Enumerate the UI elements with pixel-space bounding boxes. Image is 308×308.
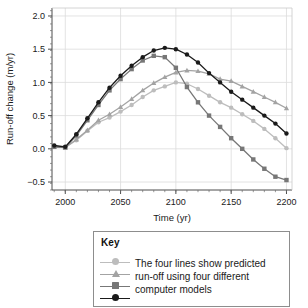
data-point-8 — [140, 55, 144, 59]
data-point-9 — [152, 88, 156, 92]
chart-key-box: Key The four lines show predicted run-of… — [93, 231, 290, 307]
data-point-17 — [240, 147, 244, 151]
key-description-line-3: computer models — [135, 283, 287, 296]
ytick-label-4: 1.5 — [32, 44, 45, 54]
data-point-19 — [262, 167, 266, 171]
model-2-sample-marker — [112, 270, 120, 277]
ytick-label-1: 0.0 — [32, 144, 45, 154]
data-point-16 — [229, 105, 233, 109]
data-point-14 — [207, 113, 211, 117]
data-point-6 — [118, 109, 122, 113]
data-point-13 — [196, 100, 200, 104]
data-point-9 — [152, 48, 156, 52]
data-point-3 — [85, 116, 89, 120]
chart-figure: −0.50.00.51.01.52.020002050210021502200T… — [0, 0, 308, 228]
ytick-label-2: 0.5 — [32, 111, 45, 121]
data-point-6 — [118, 74, 122, 78]
y-axis-title: Run-off change (m/yr) — [4, 53, 15, 145]
model-3-sample — [100, 280, 130, 292]
data-point-17 — [240, 112, 244, 116]
runoff-change-line-chart: −0.50.00.51.01.52.020002050210021502200T… — [0, 0, 308, 228]
data-point-7 — [129, 64, 133, 68]
data-point-21 — [284, 131, 288, 135]
data-point-17 — [240, 97, 244, 101]
model-4-sample — [100, 292, 130, 304]
data-point-14 — [207, 93, 211, 97]
ytick-label-3: 1.0 — [32, 78, 45, 88]
key-description-line-2: run-off using four different — [135, 270, 287, 283]
model-2-sample — [100, 268, 130, 280]
data-point-15 — [218, 80, 222, 84]
data-point-5 — [107, 86, 111, 90]
data-point-1 — [63, 145, 67, 149]
model-3-sample-marker — [112, 282, 119, 289]
data-point-10 — [163, 55, 167, 59]
model-4-sample-marker — [112, 294, 119, 301]
data-point-15 — [218, 125, 222, 129]
data-point-20 — [273, 136, 277, 140]
data-point-20 — [273, 175, 277, 179]
xtick-label-3: 2150 — [221, 197, 241, 207]
ytick-label-5: 2.0 — [32, 11, 45, 21]
xtick-label-4: 2200 — [276, 197, 296, 207]
data-point-16 — [229, 89, 233, 93]
ytick-label-0: −0.5 — [27, 177, 45, 187]
data-point-4 — [96, 100, 100, 104]
data-point-15 — [218, 100, 222, 104]
data-point-20 — [273, 121, 277, 125]
key-description: The four lines show predicted run-off us… — [135, 257, 287, 297]
data-point-11 — [174, 66, 178, 70]
plot-background — [52, 8, 292, 190]
data-point-18 — [251, 119, 255, 123]
data-point-14 — [207, 71, 211, 75]
model-1-sample-marker — [112, 258, 119, 265]
x-axis-title: Time (yr) — [153, 212, 191, 223]
data-point-10 — [163, 46, 167, 50]
data-point-21 — [284, 146, 288, 150]
model-1-sample — [100, 256, 130, 268]
data-point-0 — [52, 143, 56, 147]
data-point-18 — [251, 105, 255, 109]
data-point-13 — [196, 87, 200, 91]
xtick-label-0: 2000 — [55, 197, 75, 207]
data-point-11 — [174, 47, 178, 51]
data-point-9 — [152, 54, 156, 58]
data-point-13 — [196, 60, 200, 64]
xtick-label-2: 2100 — [166, 197, 186, 207]
xtick-label-1: 2050 — [111, 197, 131, 207]
data-point-2 — [74, 132, 78, 136]
data-point-12 — [185, 52, 189, 56]
key-title: Key — [101, 237, 120, 248]
data-point-12 — [185, 85, 189, 89]
data-point-21 — [284, 178, 288, 182]
data-point-18 — [251, 157, 255, 161]
data-point-11 — [174, 80, 178, 84]
key-sample-list — [100, 256, 130, 304]
data-point-19 — [262, 127, 266, 131]
key-description-line-1: The four lines show predicted — [135, 257, 287, 270]
data-point-19 — [262, 113, 266, 117]
data-point-7 — [129, 103, 133, 107]
data-point-10 — [163, 84, 167, 88]
data-point-16 — [229, 136, 233, 140]
data-point-8 — [140, 95, 144, 99]
